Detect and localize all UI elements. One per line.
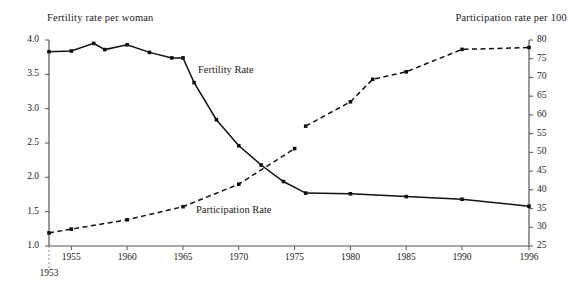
fertility-point xyxy=(282,180,286,184)
x-axis-tick-label: 1985 xyxy=(386,252,426,262)
fertility-point xyxy=(259,163,263,167)
left-axis-tick-label: 1.5 xyxy=(13,206,39,216)
right-axis-tick-label: 70 xyxy=(537,71,563,81)
fertility-point xyxy=(460,198,464,202)
left-axis-tick-label: 2.0 xyxy=(13,171,39,181)
x-axis-tick-label: 1955 xyxy=(51,252,91,262)
fertility-line xyxy=(49,43,529,206)
fertility-point xyxy=(148,51,152,55)
fertility-point xyxy=(404,195,408,199)
right-axis-tick-label: 40 xyxy=(537,184,563,194)
participation-point xyxy=(460,48,464,52)
fertility-point xyxy=(349,192,353,196)
fertility-point xyxy=(70,49,74,53)
right-axis-tick-label: 25 xyxy=(537,240,563,250)
fertility-point xyxy=(527,204,531,208)
x-axis-tick-label: 1960 xyxy=(107,252,147,262)
right-axis-tick-label: 30 xyxy=(537,221,563,231)
fertility-point xyxy=(237,144,241,148)
participation-point xyxy=(181,205,185,209)
x-axis-tick-label: 1953 xyxy=(29,268,69,278)
x-axis-tick-label: 1996 xyxy=(509,252,549,262)
x-axis-tick-label: 1970 xyxy=(219,252,259,262)
chart-container: Fertility rate per woman Participation r… xyxy=(0,0,578,286)
participation-point xyxy=(349,100,353,104)
left-axis-tick-label: 3.5 xyxy=(13,68,39,78)
fertility-point xyxy=(192,81,196,85)
left-axis-tick-label: 3.0 xyxy=(13,103,39,113)
fertility-point xyxy=(125,43,129,47)
right-axis-tick-label: 60 xyxy=(537,109,563,119)
participation-point xyxy=(47,231,51,235)
right-axis-tick-label: 50 xyxy=(537,146,563,156)
x-axis-tick-label: 1990 xyxy=(442,252,482,262)
x-axis-tick-label: 1965 xyxy=(163,252,203,262)
participation-point xyxy=(527,46,531,50)
participation-point xyxy=(70,227,74,231)
fertility-point xyxy=(181,56,185,60)
fertility-point xyxy=(215,118,219,122)
left-axis-tick-label: 2.5 xyxy=(13,137,39,147)
fertility-point xyxy=(170,56,174,60)
participation-point xyxy=(125,218,129,222)
fertility-point xyxy=(304,191,308,195)
plot-area xyxy=(0,0,578,286)
participation-point xyxy=(237,182,241,186)
left-axis-tick-label: 4.0 xyxy=(13,34,39,44)
x-axis-tick-label: 1975 xyxy=(275,252,315,262)
participation-point xyxy=(304,124,308,128)
right-axis-tick-label: 80 xyxy=(537,34,563,44)
x-axis-tick-label: 1980 xyxy=(330,252,370,262)
right-axis-tick-label: 55 xyxy=(537,128,563,138)
left-axis-tick-label: 1.0 xyxy=(13,240,39,250)
participation-point xyxy=(404,70,408,74)
fertility-point xyxy=(47,50,51,54)
right-axis-tick-label: 35 xyxy=(537,203,563,213)
fertility-point xyxy=(103,48,107,52)
participation-line xyxy=(306,48,529,127)
fertility-point xyxy=(92,42,96,46)
right-axis-tick-label: 65 xyxy=(537,90,563,100)
right-axis-tick-label: 75 xyxy=(537,53,563,63)
right-axis-tick-label: 45 xyxy=(537,165,563,175)
participation-point xyxy=(293,147,297,151)
participation-point xyxy=(371,78,375,82)
